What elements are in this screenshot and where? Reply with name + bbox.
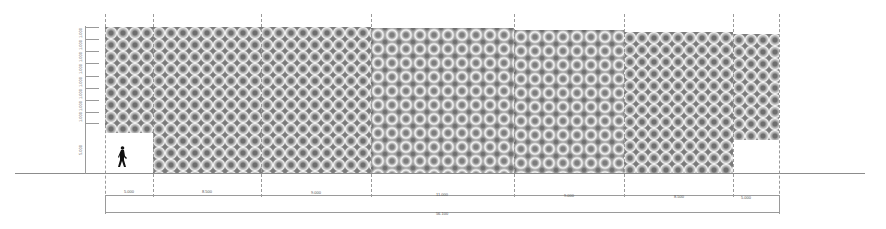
dimension-label-2: 8.500 [202,189,212,194]
vertical-tick [85,123,99,124]
vertical-tick [85,100,99,101]
vertical-dimension-label: 1.000 [78,101,83,111]
grid-line-2 [153,14,154,197]
facade-panel-6 [624,32,733,173]
right-entrance-opening [733,140,780,173]
dimension-tick-right [779,195,780,213]
vertical-dimension-label: 1.000 [78,40,83,50]
grid-line-5 [514,14,515,197]
left-entrance-opening [105,133,153,173]
dimension-label-5: 9.000 [564,193,574,198]
vertical-dimension-label: 1.000 [78,112,83,122]
grid-line-4 [371,14,372,197]
facade-panel-3 [261,27,371,173]
dimension-label-3: 9.000 [311,190,321,195]
grid-line-1 [105,14,106,214]
vertical-dimension-label: 1.000 [78,64,83,74]
vertical-dimension-label: 1.000 [78,77,83,87]
facade-panel-4 [371,28,514,173]
walking-person-icon [116,146,128,168]
total-dimension-label: 56.100 [436,211,448,216]
grid-line-8 [779,14,780,214]
vertical-dimension-label: 1.000 [78,52,83,62]
vertical-dimension-label: 5.000 [78,145,83,155]
vertical-tick [85,112,99,113]
dimension-tick-left [105,195,106,213]
vertical-tick [85,27,99,28]
vertical-dimension-label: 1.000 [78,28,83,38]
vertical-tick [85,39,99,40]
vertical-tick [85,88,99,89]
facade-panel-2 [153,27,261,173]
grid-line-6 [624,14,625,197]
vertical-dimension-label: 1.000 [78,89,83,99]
dimension-label-1: 5.000 [124,189,134,194]
grid-line-7 [733,14,734,197]
facade-panel-5 [514,30,624,173]
dimension-label-4: 11.000 [436,192,448,197]
dimension-label-7: 5.000 [741,195,751,200]
grid-line-3 [261,14,262,197]
dimension-label-6: 8.500 [674,194,684,199]
vertical-tick [85,76,99,77]
vertical-tick [85,63,99,64]
ground-line [15,173,865,174]
vertical-tick [85,51,99,52]
